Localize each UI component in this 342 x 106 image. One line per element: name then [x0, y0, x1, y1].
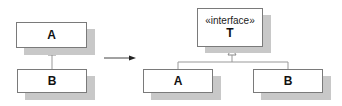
- left-class-b: B: [17, 69, 87, 93]
- class-a-name: A: [47, 29, 56, 42]
- interface-t: «interface» T: [197, 8, 263, 47]
- right-class-b: B: [253, 69, 323, 93]
- right-class-a-name: A: [174, 75, 183, 88]
- class-b-name: B: [48, 75, 57, 88]
- right-class-a: A: [143, 69, 213, 93]
- right-class-b-name: B: [284, 75, 293, 88]
- left-class-a: A: [16, 22, 87, 48]
- interface-name: T: [226, 27, 233, 40]
